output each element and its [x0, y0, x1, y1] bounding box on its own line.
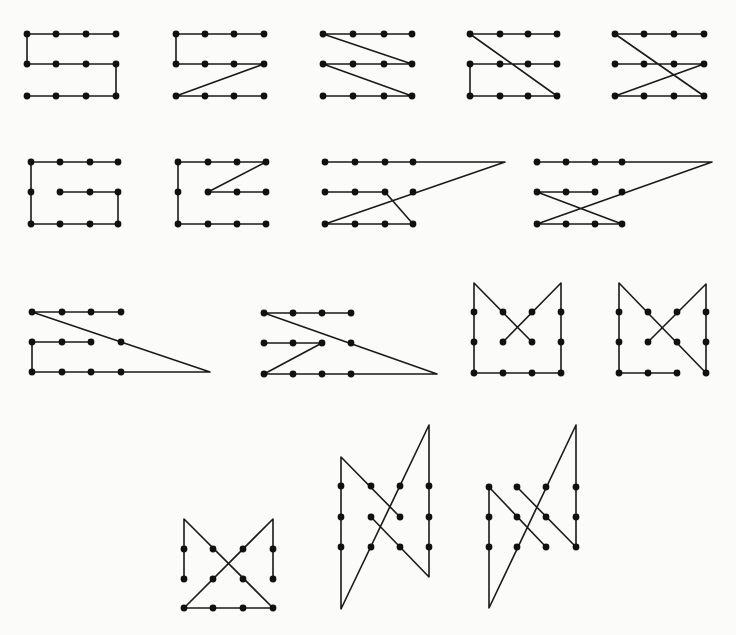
dot	[234, 189, 241, 196]
dot	[234, 221, 241, 228]
puzzle-diagram-canvas: Nine-dot / twelve-dot path puzzle soluti…	[0, 0, 736, 635]
dot	[175, 159, 182, 166]
dot	[674, 339, 681, 346]
path-line	[619, 283, 706, 373]
path-line	[184, 519, 273, 608]
dot	[352, 189, 359, 196]
dot	[348, 310, 355, 317]
dot	[497, 93, 504, 100]
fig-3-3: M shape	[471, 283, 565, 376]
dot	[525, 31, 532, 38]
dot	[322, 189, 329, 196]
dot	[290, 340, 297, 347]
dot	[57, 189, 64, 196]
dot	[471, 339, 478, 346]
dot	[202, 93, 209, 100]
dot	[210, 605, 217, 612]
dot	[115, 221, 122, 228]
dot	[409, 61, 416, 68]
dot	[263, 221, 270, 228]
dot	[263, 189, 270, 196]
dot	[261, 310, 268, 317]
path-line	[178, 162, 266, 224]
dot	[205, 189, 212, 196]
dot	[338, 483, 345, 490]
dot	[471, 370, 478, 377]
dot	[270, 546, 277, 553]
dot	[175, 221, 182, 228]
dot	[240, 605, 247, 612]
dot	[261, 61, 268, 68]
dot	[701, 31, 708, 38]
fig-1-5: Crossed diagonals	[612, 31, 708, 100]
dot	[382, 221, 389, 228]
dot	[641, 61, 648, 68]
dot	[231, 93, 238, 100]
dot	[59, 339, 66, 346]
dot	[410, 189, 417, 196]
dot	[115, 189, 122, 196]
dot	[701, 61, 708, 68]
dot	[231, 31, 238, 38]
dot	[319, 310, 326, 317]
dot	[529, 339, 536, 346]
dot	[29, 339, 36, 346]
dot	[529, 309, 536, 316]
dot	[563, 221, 570, 228]
dot	[240, 546, 247, 553]
dot	[231, 61, 238, 68]
dot	[290, 371, 297, 378]
dot	[563, 159, 570, 166]
dot	[703, 339, 710, 346]
dot	[322, 221, 329, 228]
dot	[641, 31, 648, 38]
dot	[397, 544, 404, 551]
dot	[348, 371, 355, 378]
fig-2-3: Extended apex path A	[322, 159, 505, 228]
dot	[53, 93, 60, 100]
dot	[701, 93, 708, 100]
dot	[409, 31, 416, 38]
dot	[175, 189, 182, 196]
dot	[703, 309, 710, 316]
dot	[261, 31, 268, 38]
dot	[471, 309, 478, 316]
dot	[210, 546, 217, 553]
dot	[59, 309, 66, 316]
dot	[645, 339, 652, 346]
dot	[410, 221, 417, 228]
dot	[113, 31, 120, 38]
dot	[59, 369, 66, 376]
dot	[173, 61, 180, 68]
dot	[88, 309, 95, 316]
dot	[467, 31, 474, 38]
dot	[558, 309, 565, 316]
dot	[514, 514, 521, 521]
dot	[671, 61, 678, 68]
dot	[500, 339, 507, 346]
path-line	[341, 425, 429, 609]
dot	[290, 310, 297, 317]
dot	[554, 93, 561, 100]
dot	[350, 93, 357, 100]
dot	[382, 159, 389, 166]
dot	[261, 340, 268, 347]
dot	[397, 483, 404, 490]
dot	[426, 514, 433, 521]
dot	[115, 159, 122, 166]
dot	[83, 61, 90, 68]
path-line	[615, 34, 704, 96]
dot	[270, 576, 277, 583]
dot	[263, 159, 270, 166]
dot	[554, 61, 561, 68]
dot	[28, 159, 35, 166]
dot	[320, 31, 327, 38]
path-line	[27, 34, 116, 96]
dot	[181, 576, 188, 583]
path-line	[470, 34, 557, 96]
dot	[202, 31, 209, 38]
dot	[173, 93, 180, 100]
dot	[29, 369, 36, 376]
dot	[338, 514, 345, 521]
dot	[486, 514, 493, 521]
